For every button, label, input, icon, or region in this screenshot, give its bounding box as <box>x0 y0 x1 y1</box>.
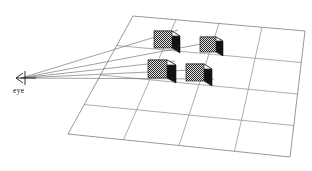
cube-back-right-front <box>200 37 216 52</box>
cube-front-right-front <box>186 64 204 81</box>
cube-back-left <box>154 31 180 53</box>
grid-line-v3 <box>235 27 263 151</box>
cube-back-left-front <box>154 31 172 48</box>
perspective-diagram: eye <box>0 0 312 171</box>
figure-root: eye <box>0 0 312 171</box>
eye-label: eye <box>13 86 25 95</box>
grid-lines-vertical <box>124 20 263 152</box>
cube-front-right <box>186 64 212 86</box>
grid-lines-horizontal <box>84 46 301 126</box>
ray-5 <box>21 78 214 79</box>
grid-outline <box>68 16 305 157</box>
cube-front-left <box>148 60 176 83</box>
cube-front-left-front <box>148 60 167 78</box>
eye-point <box>16 71 36 85</box>
ground-grid <box>68 16 305 157</box>
